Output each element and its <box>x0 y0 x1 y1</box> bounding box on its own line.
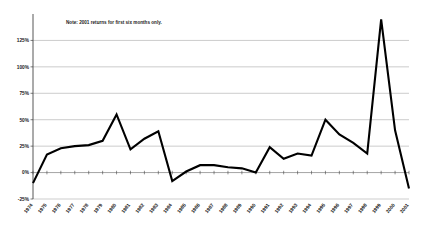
y-axis-label: 100% <box>17 65 30 70</box>
y-axis-label: -25% <box>18 197 30 202</box>
y-axis-label: 0% <box>22 170 30 175</box>
y-axis-label: 125% <box>17 38 30 43</box>
line-chart: 125%100%75%50%25%0%-25% 1974197519761977… <box>0 0 424 235</box>
chart-container: 125%100%75%50%25%0%-25% 1974197519761977… <box>0 0 424 235</box>
y-axis-label: 75% <box>19 91 29 96</box>
chart-background <box>0 0 424 235</box>
y-axis-label: 25% <box>19 144 29 149</box>
y-axis-label: 50% <box>19 118 29 123</box>
chart-note: Note: 2001 returns for first six months … <box>66 20 162 25</box>
